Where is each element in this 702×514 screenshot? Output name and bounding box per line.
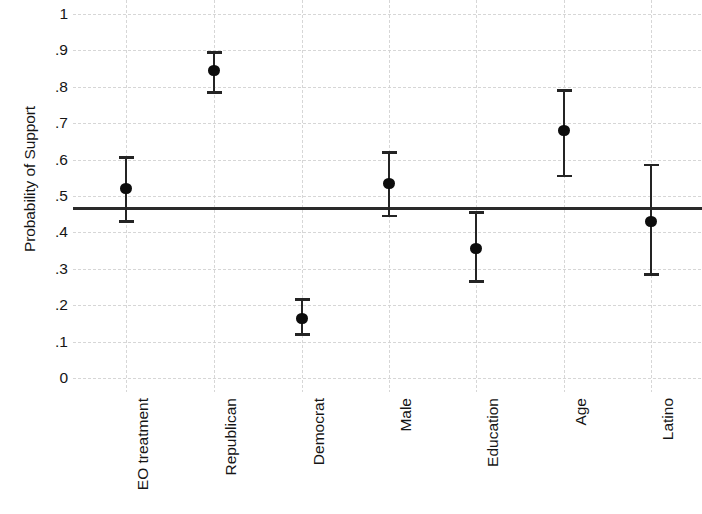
gridline-horizontal [73,50,702,51]
x-axis-tick-label-text: Republican [222,392,240,476]
gridline-horizontal [73,232,702,233]
x-axis-tick-label: Republican [222,392,240,476]
error-bar-cap-lower [469,280,484,283]
y-axis-tick-label: .5 [32,188,68,204]
probability-of-support-coefficient-plot: Probability of Support 1.9.8.7.6.5.4.3.2… [0,0,702,514]
point-estimate-marker [208,65,219,76]
y-axis-tick-label: .4 [32,224,68,240]
error-bar-cap-upper [469,211,484,214]
point-estimate-marker [470,243,481,254]
y-axis-tick-label: .6 [32,152,68,168]
y-axis-tick-labels: 1.9.8.7.6.5.4.3.2.10 [28,0,68,514]
x-axis-tick-label-text: Democrat [310,392,328,465]
error-bar-cap-lower [207,91,222,94]
error-bar-cap-lower [295,333,310,336]
point-estimate-marker [383,178,394,189]
error-bar-cap-upper [644,164,659,167]
x-axis-tick-label-text: Age [572,392,590,426]
error-bar-cap-upper [207,51,222,54]
x-axis-tick-label-text: Male [397,392,415,432]
x-axis-tick-label-text: Latino [659,392,677,440]
error-bar-cap-lower [382,215,397,218]
error-bar-cap-lower [119,220,134,223]
x-axis-tick-label: Democrat [310,392,328,465]
gridline-vertical [564,0,565,392]
point-estimate-marker [120,183,131,194]
error-bar-cap-upper [382,151,397,154]
x-axis-tick-label: Male [397,392,415,432]
y-axis-tick-label: .8 [32,79,68,95]
x-axis-tick-label: Latino [659,392,677,440]
gridline-horizontal [73,269,702,270]
error-bar-cap-upper [557,89,572,92]
gridline-horizontal [73,305,702,306]
error-bar-cap-upper [119,156,134,159]
point-estimate-marker [296,313,307,324]
y-axis-tick-label: .9 [32,42,68,58]
gridline-horizontal [73,342,702,343]
gridline-vertical [476,0,477,392]
error-bar-cap-upper [295,298,310,301]
x-axis-tick-label: EO treatment [134,392,152,490]
plot-area: EO treatmentRepublicanDemocratMaleEducat… [73,0,702,392]
y-axis-tick-label: .1 [32,334,68,350]
y-axis-tick-label: 0 [32,370,68,386]
gridline-horizontal [73,14,702,15]
error-bar-cap-lower [557,175,572,178]
point-estimate-marker [558,125,569,136]
x-axis-tick-label: Education [484,392,502,467]
y-axis-tick-label: .3 [32,261,68,277]
gridline-horizontal [73,123,702,124]
x-axis-tick-label: Age [572,392,590,426]
error-bar-cap-lower [644,273,659,276]
gridline-horizontal [73,378,702,379]
y-axis-tick-label: .2 [32,297,68,313]
gridline-horizontal [73,87,702,88]
y-axis-tick-label: 1 [32,6,68,22]
x-axis-tick-label-text: EO treatment [134,392,152,490]
x-axis-tick-label-text: Education [484,392,502,467]
y-axis-tick-label: .7 [32,115,68,131]
point-estimate-marker [645,216,656,227]
